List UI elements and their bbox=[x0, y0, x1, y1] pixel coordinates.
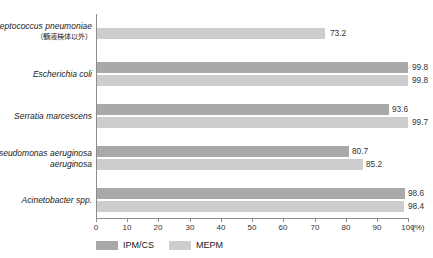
axis-tick-20 bbox=[158, 218, 159, 222]
bar-value-mepm-escherichia-coli: 99.8 bbox=[412, 75, 428, 86]
bar-value-ipmcs-acinetobacter-spp: 98.6 bbox=[408, 188, 424, 199]
axis-tick-100 bbox=[408, 218, 409, 222]
axis-tick-label-50: 50 bbox=[248, 223, 257, 233]
axis-tick-label-60: 60 bbox=[279, 223, 288, 233]
axis-tick-label-70: 70 bbox=[311, 223, 320, 233]
category-label-line1: Escherichia coli bbox=[33, 69, 92, 79]
legend-label-mepm: MEPM bbox=[196, 240, 223, 250]
category-label-escherichia-coli: Escherichia coli bbox=[33, 69, 92, 80]
legend-swatch-ipmcs-icon bbox=[96, 241, 118, 250]
susceptibility-bar-chart: Streptococcus pneumoniae （髄液検体以外） 73.2 E… bbox=[0, 0, 433, 258]
bar-value-ipmcs-escherichia-coli: 99.8 bbox=[412, 62, 428, 73]
legend-item-ipmcs[interactable]: IPM/CS bbox=[96, 240, 154, 250]
axis-tick-label-80: 80 bbox=[342, 223, 351, 233]
category-label-line1: Streptococcus pneumoniae bbox=[0, 21, 92, 31]
category-label-line1: Serratia marcescens bbox=[14, 111, 92, 121]
legend-label-ipmcs: IPM/CS bbox=[123, 240, 154, 250]
axis-tick-40 bbox=[221, 218, 222, 222]
bar-mepm-escherichia-coli[interactable] bbox=[97, 75, 408, 86]
category-sublabel-streptococcus-pneumoniae: （髄液検体以外） bbox=[0, 32, 92, 42]
axis-tick-10 bbox=[127, 218, 128, 222]
bar-value-ipmcs-pseudomonas-aeruginosa: 80.7 bbox=[352, 146, 368, 157]
bar-value-mepm-pseudomonas-aeruginosa: 85.2 bbox=[366, 159, 382, 170]
legend-item-mepm[interactable]: MEPM bbox=[169, 240, 223, 250]
category-label-line1: Acinetobacter spp. bbox=[22, 195, 92, 205]
bar-mepm-streptococcus-pneumoniae[interactable] bbox=[97, 28, 325, 39]
axis-tick-60 bbox=[283, 218, 284, 222]
bar-value-ipmcs-serratia-marcescens: 93.6 bbox=[392, 104, 408, 115]
axis-tick-70 bbox=[315, 218, 316, 222]
axis-tick-label-0: 0 bbox=[94, 223, 98, 233]
axis-tick-label-10: 10 bbox=[123, 223, 132, 233]
bar-value-mepm-serratia-marcescens: 99.7 bbox=[412, 117, 428, 128]
bar-ipmcs-serratia-marcescens[interactable] bbox=[97, 104, 389, 115]
axis-tick-label-40: 40 bbox=[217, 223, 226, 233]
category-label-line2: aeruginosa bbox=[0, 159, 92, 169]
category-label-pseudomonas-aeruginosa: Pseudomonas aeruginosa aeruginosa bbox=[0, 148, 92, 169]
axis-unit-label: (%) bbox=[412, 223, 424, 233]
category-label-acinetobacter-spp: Acinetobacter spp. bbox=[22, 195, 92, 206]
chart-legend: IPM/CS MEPM bbox=[96, 240, 231, 250]
bar-value-mepm-acinetobacter-spp: 98.4 bbox=[408, 201, 424, 212]
category-label-line1: Pseudomonas aeruginosa bbox=[0, 148, 92, 158]
axis-tick-50 bbox=[252, 218, 253, 222]
axis-tick-label-90: 90 bbox=[373, 223, 382, 233]
bar-mepm-pseudomonas-aeruginosa[interactable] bbox=[97, 159, 363, 170]
axis-tick-label-20: 20 bbox=[154, 223, 163, 233]
bar-ipmcs-pseudomonas-aeruginosa[interactable] bbox=[97, 146, 349, 157]
axis-tick-80 bbox=[346, 218, 347, 222]
axis-tick-0 bbox=[96, 218, 97, 222]
bar-ipmcs-escherichia-coli[interactable] bbox=[97, 62, 408, 73]
axis-tick-90 bbox=[377, 218, 378, 222]
legend-swatch-mepm-icon bbox=[169, 241, 191, 250]
bar-value-mepm-streptococcus-pneumoniae: 73.2 bbox=[330, 28, 346, 39]
category-label-streptococcus-pneumoniae: Streptococcus pneumoniae （髄液検体以外） bbox=[0, 21, 92, 42]
axis-tick-30 bbox=[190, 218, 191, 222]
axis-tick-label-30: 30 bbox=[186, 223, 195, 233]
bar-mepm-acinetobacter-spp[interactable] bbox=[97, 201, 404, 212]
bar-mepm-serratia-marcescens[interactable] bbox=[97, 117, 408, 128]
category-label-serratia-marcescens: Serratia marcescens bbox=[14, 111, 92, 122]
bar-ipmcs-acinetobacter-spp[interactable] bbox=[97, 188, 405, 199]
